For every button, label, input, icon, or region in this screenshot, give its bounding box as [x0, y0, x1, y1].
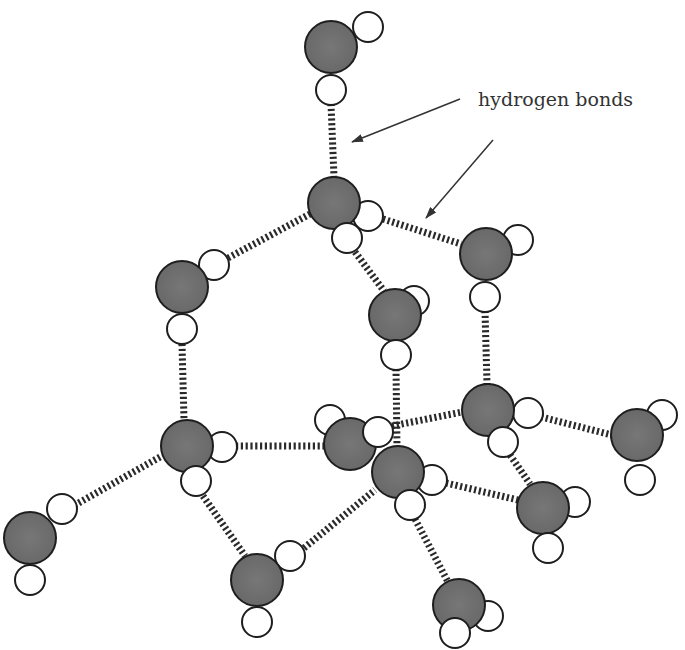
oxygen-atom [4, 512, 56, 564]
hydrogen-bond-line [415, 519, 448, 582]
oxygen-atom [156, 261, 208, 313]
water-hydrogen-bond-diagram: hydrogen bonds [0, 0, 685, 650]
annotation-arrow [426, 140, 493, 218]
water-molecule [462, 384, 543, 457]
hydrogen-atom [332, 223, 362, 253]
hydrogen-atom [47, 494, 77, 524]
water-molecule [231, 541, 305, 637]
water-molecule [517, 482, 590, 563]
hydrogen-atom [513, 398, 543, 428]
annotation: hydrogen bonds [352, 88, 633, 218]
oxygen-atom [308, 177, 360, 229]
hydrogen-bond-line [446, 483, 518, 500]
hydrogen-atom [15, 565, 45, 595]
hydrogen-atom [395, 490, 425, 520]
hydrogen-atom [440, 618, 470, 648]
hydrogen-bond-line [182, 344, 184, 420]
hydrogen-bond-line [355, 252, 384, 291]
hydrogen-atom [381, 340, 411, 370]
hydrogen-atom [470, 282, 500, 312]
hydrogen-bond-line [485, 311, 487, 384]
water-molecule [372, 446, 447, 520]
hydrogen-bond-line [541, 417, 612, 435]
water-molecule [460, 225, 533, 312]
hydrogen-bonds-label: hydrogen bonds [478, 88, 633, 110]
hydrogen-atom [316, 75, 346, 105]
hydrogen-bond-line [383, 219, 461, 244]
water-molecule [369, 286, 429, 370]
oxygen-atom [460, 228, 512, 280]
hydrogen-atom [167, 314, 197, 344]
hydrogen-bond-line [392, 412, 462, 426]
oxygen-atom [372, 446, 424, 498]
hydrogen-bond-line [510, 455, 530, 484]
water-molecule [308, 177, 383, 253]
hydrogen-bond-line [396, 369, 397, 446]
hydrogen-bond-line [203, 496, 245, 556]
hydrogen-bond-line [331, 104, 334, 177]
annotation-arrow [352, 99, 460, 142]
hydrogen-bond-line [228, 214, 310, 258]
oxygen-atom [305, 21, 357, 73]
hydrogen-atom [363, 417, 393, 447]
hydrogen-atom [181, 466, 211, 496]
water-molecule [161, 420, 237, 496]
hydrogen-atom [488, 427, 518, 457]
hydrogen-bond-line [304, 490, 375, 548]
oxygen-atom [611, 409, 663, 461]
water-molecule [4, 494, 77, 595]
water-molecule [156, 250, 229, 344]
hydrogen-bond-line [75, 457, 160, 505]
water-molecule [433, 579, 503, 648]
hydrogen-atom [353, 12, 383, 42]
water-molecule [611, 400, 677, 495]
hydrogen-atom [242, 607, 272, 637]
oxygen-atom [517, 482, 569, 534]
oxygen-atom [161, 420, 213, 472]
hydrogen-atom [533, 533, 563, 563]
water-molecule [305, 12, 383, 105]
oxygen-atom [369, 289, 421, 341]
hydrogen-atom [625, 465, 655, 495]
oxygen-atom [231, 554, 283, 606]
